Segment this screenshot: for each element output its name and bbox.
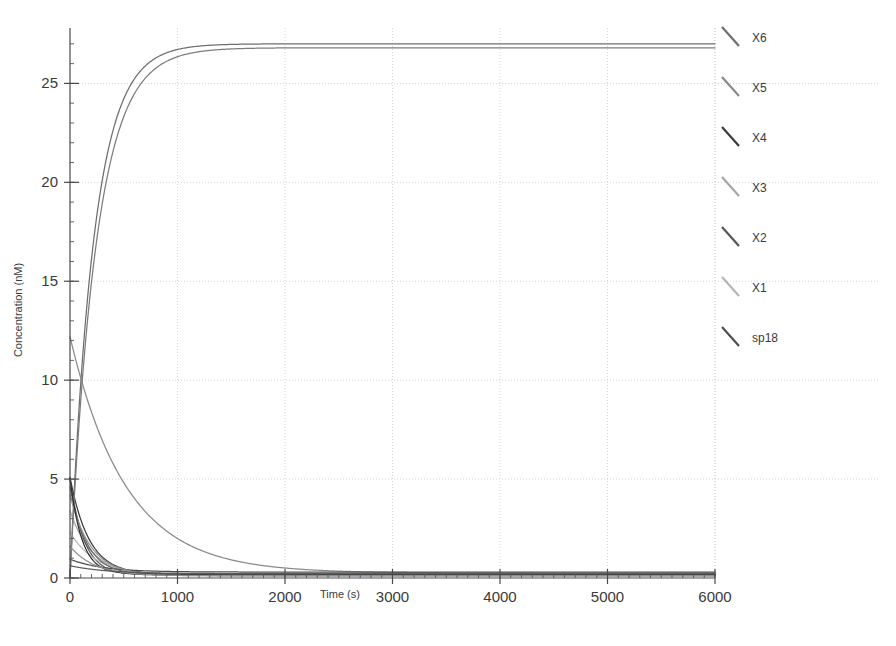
legend-label-sp18: sp18: [752, 331, 778, 345]
x-tick-label: 4000: [483, 588, 516, 605]
x-tick-label: 6000: [698, 588, 731, 605]
legend-label-X3: X3: [752, 181, 767, 195]
legend-label-X4: X4: [752, 131, 767, 145]
concentration-vs-time-chart: 0100020003000400050006000 0510152025 X6X…: [0, 0, 896, 646]
y-tick-label: 10: [41, 371, 58, 388]
chart-background: [0, 0, 896, 646]
x-tick-label: 2000: [268, 588, 301, 605]
x-tick-label: 5000: [591, 588, 624, 605]
x-tick-label: 1000: [161, 588, 194, 605]
y-axis-title: Concentration (nM): [12, 263, 24, 357]
y-tick-label: 15: [41, 272, 58, 289]
y-tick-label: 5: [50, 470, 58, 487]
y-tick-label: 0: [50, 569, 58, 586]
x-tick-label: 0: [66, 588, 74, 605]
x-tick-label: 3000: [376, 588, 409, 605]
legend-label-X6: X6: [752, 31, 767, 45]
legend-label-X1: X1: [752, 281, 767, 295]
legend-label-X2: X2: [752, 231, 767, 245]
y-tick-label: 20: [41, 173, 58, 190]
y-tick-label: 25: [41, 74, 58, 91]
legend-label-X5: X5: [752, 81, 767, 95]
x-axis-title: Time (s): [320, 588, 360, 600]
